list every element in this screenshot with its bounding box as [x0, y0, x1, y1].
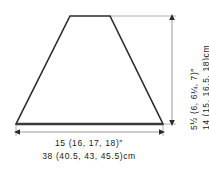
height-measurement-imperial: 5½ (6, 6¼, 7)″: [189, 68, 199, 130]
vertical-dimension-arrow-top: [169, 14, 175, 20]
schematic-diagram: 15 (16, 17, 18)″ 38 (40.5, 43, 45.5)cm 5…: [0, 0, 209, 171]
height-measurement-group: 5½ (6, 6¼, 7)″ 14 (15, 16.5, 18)cm: [180, 12, 204, 132]
height-measurement-metric: 14 (15, 16.5, 18)cm: [201, 45, 209, 130]
horizontal-dimension-arrow-right: [159, 129, 165, 135]
width-measurement-imperial: 15 (16, 17, 18)″: [0, 138, 178, 148]
horizontal-dimension-arrow-left: [14, 129, 20, 135]
vertical-dimension-arrow-bottom: [169, 120, 175, 126]
trapezoid-outline: [16, 16, 163, 124]
width-measurement-metric: 38 (40.5, 43, 45.5)cm: [0, 151, 178, 161]
